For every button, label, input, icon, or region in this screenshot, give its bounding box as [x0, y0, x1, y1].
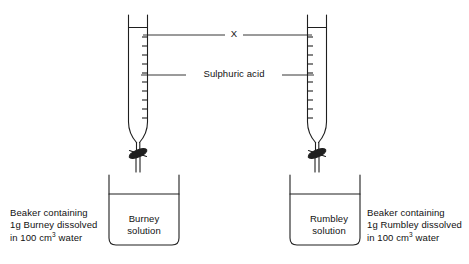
left-caption-tail: water — [56, 232, 82, 243]
titration-diagram: X Sulphuric acid Burney solution Rumbley… — [0, 0, 469, 264]
right-burette — [307, 15, 327, 172]
left-burette-taper-right — [140, 122, 148, 143]
right-beaker-label: Rumbley solution — [296, 213, 362, 238]
right-burette-taper-right — [319, 122, 327, 143]
right-stopcock[interactable] — [307, 147, 327, 161]
right-burette-taper-left — [308, 122, 316, 143]
left-burette — [128, 15, 148, 172]
sulphuric-acid-label: Sulphuric acid — [186, 68, 282, 80]
x-label: X — [227, 28, 241, 40]
left-burette-taper-left — [129, 122, 137, 143]
left-burette-graduations — [142, 37, 148, 118]
left-stopcock[interactable] — [128, 147, 148, 161]
left-beaker-caption: Beaker containing 1g Burney dissolved in… — [10, 207, 112, 244]
left-beaker-label: Burney solution — [113, 213, 175, 238]
right-burette-graduations — [308, 37, 314, 118]
right-caption-tail: water — [413, 232, 439, 243]
right-beaker-caption: Beaker containing 1g Rumbley dissolved i… — [367, 207, 469, 244]
